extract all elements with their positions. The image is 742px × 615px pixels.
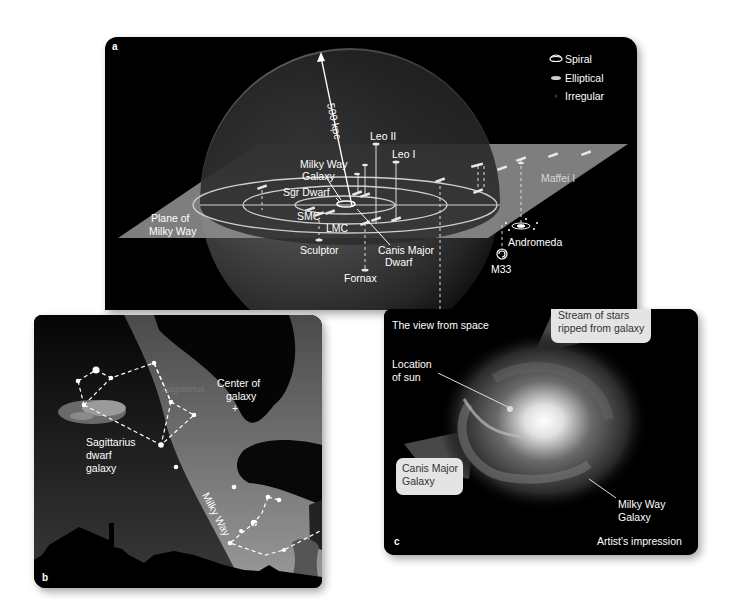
legend: Spiral Elliptical Irregular (550, 53, 605, 102)
milky-way-galaxy-image (439, 331, 649, 511)
stream-label-1: Stream of stars (558, 309, 629, 321)
mw-label-1: Milky Way (618, 498, 666, 510)
label-leo-i: Leo I (392, 148, 415, 160)
label-milky-way-2: Galaxy (302, 170, 335, 182)
plane-label-2: Milky Way (149, 225, 197, 237)
panel-letter-b: b (42, 572, 48, 583)
spiral-galaxy-icon (550, 55, 562, 62)
view-from-space-diagram: Stream of stars ripped from galaxy Canis… (384, 309, 698, 555)
stream-label-2: ripped from galaxy (558, 322, 645, 334)
label-sgr-dwarf: Sgr Dwarf (283, 186, 330, 198)
center-label-2: galaxy (226, 390, 257, 402)
andromeda-spiral-icon (512, 223, 530, 229)
label-lmc: LMC (326, 222, 349, 234)
panel-letter-a: a (112, 41, 118, 52)
label-sculptor: Sculptor (300, 244, 339, 256)
galactic-center-marker: + (232, 402, 238, 414)
artists-impression-caption: Artist's impression (597, 535, 682, 547)
sky-view-diagram: Center of galaxy + Sagittarius Sagittari… (34, 315, 322, 588)
label-leo-ii: Leo II (370, 130, 396, 142)
label-maffei: Maffei I (541, 172, 575, 184)
view-title: The view from space (392, 319, 489, 331)
label-fornax: Fornax (344, 272, 377, 284)
canis-label-1: Canis Major (402, 462, 459, 474)
sun-label-1: Location (392, 358, 432, 370)
sgr-dwarf-label-2: dwarf (86, 449, 112, 461)
legend-elliptical: Elliptical (565, 72, 604, 84)
canis-label-2: Galaxy (402, 475, 435, 487)
legend-irregular: Irregular (565, 90, 605, 102)
sgr-dwarf-label-3: galaxy (86, 462, 117, 474)
panel-c-view-from-space: Stream of stars ripped from galaxy Canis… (384, 309, 698, 555)
m33-spiral-icon (497, 249, 507, 259)
center-label-1: Center of (217, 377, 260, 389)
local-group-diagram: 500 kpc (105, 37, 637, 310)
elliptical-galaxy-icon (551, 76, 561, 80)
plane-label-1: Plane of (151, 212, 190, 224)
sun-label-2: of sun (392, 371, 421, 383)
sgr-dwarf-label-1: Sagittarius (86, 436, 136, 448)
panel-a-local-group: 500 kpc (105, 37, 637, 310)
label-m33: M33 (491, 263, 512, 275)
panel-letter-c: c (394, 536, 400, 547)
irregular-galaxy-icon (555, 95, 558, 98)
panel-b-sky-view: Center of galaxy + Sagittarius Sagittari… (34, 315, 322, 588)
sagittarius-constellation-label: Sagittarius (162, 384, 205, 394)
sagittarius-dwarf-cloud (58, 400, 126, 424)
label-canis-major-1: Canis Major (378, 244, 435, 256)
label-canis-major-2: Dwarf (385, 256, 413, 268)
scorpius-label: Scorpius (253, 522, 292, 533)
legend-spiral: Spiral (565, 53, 592, 65)
label-smc: SMC (297, 210, 321, 222)
label-milky-way-1: Milky Way (300, 158, 348, 170)
mw-label-2: Galaxy (618, 511, 651, 523)
label-andromeda: Andromeda (508, 236, 562, 248)
